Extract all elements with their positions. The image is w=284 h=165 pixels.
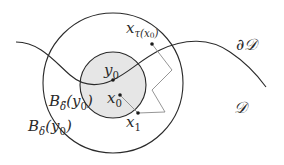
label-x1: x1 [126,115,141,133]
label-boundary: ∂𝒟 [236,37,257,53]
label-domain: 𝒟 [234,100,247,116]
label-x-tau: xτ(x0) [126,21,159,39]
label-outer-ball: Bδ(y0) [28,119,72,137]
label-y0: y0 [104,63,119,81]
label-x0: x0 [107,91,122,109]
point-x-tau [150,42,154,46]
label-inner-ball: Bδ̃(y0) [49,94,93,112]
